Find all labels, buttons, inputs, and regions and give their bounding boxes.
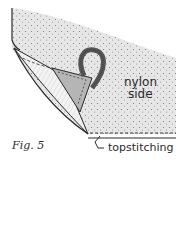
label-side: side [128,88,153,100]
label-topstitching: topstitching [108,142,173,153]
figure-label: Fig. 5 [12,140,44,151]
